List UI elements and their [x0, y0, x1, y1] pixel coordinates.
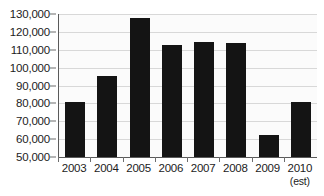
x-axis-tick-label: 2006: [155, 162, 187, 174]
x-axis-tick-label: 2003: [58, 162, 90, 174]
y-axis-tick-mark: [50, 121, 56, 122]
bar-slot: [285, 14, 317, 157]
x-axis-tick-label: 2005: [123, 162, 155, 174]
bars-layer: [59, 14, 317, 157]
x-axis: 20032004200520062007200820092010(est): [58, 157, 316, 196]
x-axis-tick-mark: [284, 157, 285, 162]
y-axis: 130,000120,000110,000100,00090,00080,000…: [0, 0, 58, 196]
bar-slot: [188, 14, 220, 157]
x-axis-sublabel: (est): [284, 175, 316, 187]
plot-area: [58, 14, 317, 158]
y-axis-tick-label: 110,000: [11, 44, 50, 56]
y-axis-tick-label: 120,000: [10, 26, 50, 38]
y-axis-tick-label: 100,000: [10, 62, 50, 74]
y-axis-tick-mark: [50, 139, 56, 140]
bar-slot: [220, 14, 252, 157]
bar-chart-figure: 130,000120,000110,000100,00090,00080,000…: [0, 0, 324, 196]
bar-slot: [91, 14, 123, 157]
x-axis-tick-mark: [58, 157, 59, 162]
y-axis-tick-label: 60,000: [16, 133, 50, 145]
x-axis-category: 2008: [219, 157, 251, 196]
x-axis-tick-mark: [187, 157, 188, 162]
y-axis-tick-mark: [50, 31, 56, 32]
y-axis-tick-label: 50,000: [16, 151, 50, 163]
x-axis-tick-mark: [90, 157, 91, 162]
x-axis-tick-label: 2007: [187, 162, 219, 174]
bar: [97, 76, 117, 157]
bar: [291, 102, 311, 157]
y-axis-tick-mark: [50, 85, 56, 86]
bar-slot: [59, 14, 91, 157]
y-axis-tick-label: 130,000: [10, 8, 50, 20]
y-axis-tick-mark: [50, 49, 56, 50]
x-axis-category: 2007: [187, 157, 219, 196]
y-axis-tick-mark: [50, 14, 56, 15]
x-axis-category: 2003: [58, 157, 90, 196]
x-axis-tick-label: 2004: [90, 162, 122, 174]
x-axis-category: 2009: [252, 157, 284, 196]
y-axis-tick-label: 90,000: [16, 80, 50, 92]
x-axis-tick-mark: [155, 157, 156, 162]
y-axis-tick-mark: [50, 157, 56, 158]
y-axis-tick-label: 70,000: [16, 115, 50, 127]
x-axis-tick-label: 2010: [284, 162, 316, 174]
x-axis-tick-mark: [252, 157, 253, 162]
bar: [259, 135, 279, 157]
bar: [194, 42, 214, 157]
x-axis-tick-label: 2009: [252, 162, 284, 174]
x-axis-category: 2004: [90, 157, 122, 196]
x-axis-category: 2010(est): [284, 157, 316, 196]
y-axis-tick-label: 80,000: [16, 97, 50, 109]
bar-slot: [124, 14, 156, 157]
bar: [65, 102, 85, 157]
x-axis-category: 2006: [155, 157, 187, 196]
bar-slot: [156, 14, 188, 157]
x-axis-tick-mark: [123, 157, 124, 162]
y-axis-tick-mark: [50, 67, 56, 68]
bar: [226, 43, 246, 157]
x-axis-category: 2005: [123, 157, 155, 196]
y-axis-tick-mark: [50, 103, 56, 104]
bar: [130, 18, 150, 157]
x-axis-tick-label: 2008: [219, 162, 251, 174]
bar-slot: [253, 14, 285, 157]
x-axis-tick-mark: [219, 157, 220, 162]
bar: [162, 45, 182, 157]
